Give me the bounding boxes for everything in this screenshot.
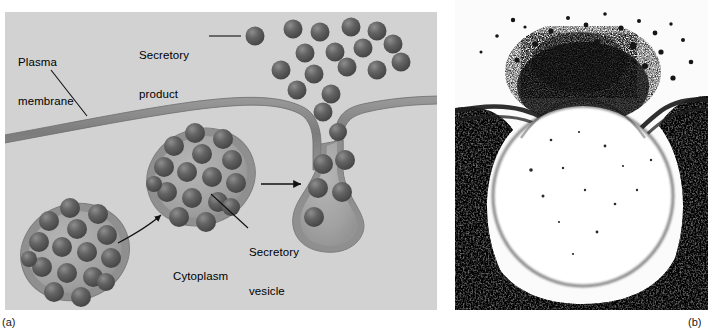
label-secretory-product-line2: product: [139, 88, 189, 101]
label-plasma-membrane: Plasma membrane: [18, 30, 74, 134]
label-secretory-vesicle: Secretory vesicle: [249, 220, 299, 310]
label-cytoplasm: Cytoplasm: [173, 270, 228, 283]
panel-a-letter: (a): [2, 316, 15, 328]
label-secretory-product: Secretory product: [139, 23, 189, 127]
micrograph-svg: [455, 0, 708, 310]
label-secretory-vesicle-line2: vesicle: [249, 285, 299, 298]
figure-exocytosis: Plasma membrane Secretory product Secret…: [0, 0, 712, 336]
label-plasma-membrane-line1: Plasma: [18, 56, 74, 69]
label-secretory-product-line1: Secretory: [139, 49, 189, 62]
panel-b-micrograph: [455, 0, 708, 310]
label-plasma-membrane-line2: membrane: [18, 95, 74, 108]
panel-a-diagram: Plasma membrane Secretory product Secret…: [5, 12, 437, 310]
label-secretory-vesicle-line1: Secretory: [249, 246, 299, 259]
panel-b-letter: (b): [688, 316, 701, 328]
